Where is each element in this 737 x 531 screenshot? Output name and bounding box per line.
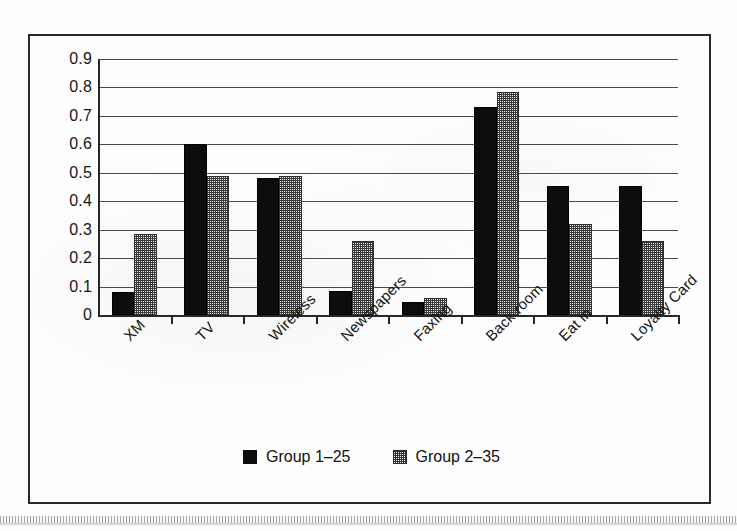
legend-item[interactable]: Group 1–25 — [243, 448, 351, 466]
bar-2 — [569, 224, 591, 315]
y-axis-tick-label: 0.1 — [46, 279, 92, 295]
bar-2 — [134, 234, 156, 315]
checkered-square-marker — [393, 450, 407, 464]
y-axis-tick-label: 0.5 — [46, 165, 92, 181]
chart-figure-frame: 00.10.20.30.40.50.60.70.80.9 XMTVWireles… — [28, 34, 711, 504]
chart-legend: Group 1–25Group 2–35 — [30, 448, 713, 466]
y-axis-tick-label: 0.9 — [46, 51, 92, 67]
bar-1 — [619, 186, 641, 315]
y-axis-tick-label: 0 — [46, 307, 92, 323]
bar-1 — [547, 186, 569, 315]
y-axis-tick-label: 0.2 — [46, 250, 92, 266]
bar-1 — [257, 178, 279, 315]
x-axis-tick — [533, 315, 535, 324]
x-axis-tick — [171, 315, 173, 324]
x-axis-tick — [388, 315, 390, 324]
x-axis-tick — [243, 315, 245, 324]
scan-edge-shadow — [0, 523, 737, 526]
y-axis-tick-label: 0.8 — [46, 79, 92, 95]
bar-1 — [184, 144, 206, 315]
y-axis-tick-label: 0.4 — [46, 193, 92, 209]
y-axis-tick-labels: 00.10.20.30.40.50.60.70.80.9 — [38, 59, 92, 315]
bar-2 — [279, 176, 301, 315]
bar-1 — [112, 292, 134, 315]
category-label: TV — [192, 318, 218, 344]
bar-2 — [497, 92, 519, 315]
x-axis-tick — [316, 315, 318, 324]
scan-edge-artifact — [0, 516, 737, 523]
x-axis-tick — [606, 315, 608, 324]
gridline — [98, 87, 678, 88]
legend-item[interactable]: Group 2–35 — [393, 448, 501, 466]
gridline — [98, 116, 678, 117]
bar-2 — [207, 176, 229, 315]
bar-1 — [474, 107, 496, 315]
bar-1 — [329, 291, 351, 315]
bar-chart-plot: 00.10.20.30.40.50.60.70.80.9 XMTVWireles… — [30, 36, 713, 506]
gridline — [98, 59, 678, 60]
legend-label: Group 1–25 — [266, 448, 351, 466]
y-axis-tick-label: 0.7 — [46, 108, 92, 124]
plot-area — [98, 59, 678, 315]
y-axis-tick-label: 0.3 — [46, 222, 92, 238]
legend-label: Group 2–35 — [416, 448, 501, 466]
x-axis-tick — [461, 315, 463, 324]
y-axis-tick-label: 0.6 — [46, 136, 92, 152]
bar-1 — [402, 302, 424, 315]
category-label: XM — [120, 316, 148, 344]
y-axis-line — [98, 59, 100, 315]
x-axis-tick-end — [678, 315, 680, 324]
black-square-marker — [243, 450, 257, 464]
